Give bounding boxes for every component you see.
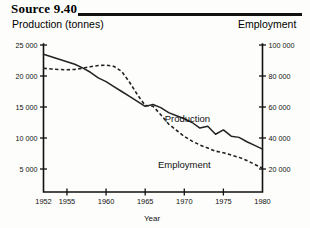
right-tick-label: 80 000 — [269, 72, 291, 81]
x-tick-label: 1960 — [98, 197, 114, 206]
right-tick-label: 40 000 — [269, 134, 291, 143]
series-annotations: ProductionEmployment — [158, 113, 211, 170]
series-line-employment — [44, 65, 263, 168]
series-line-production — [44, 54, 263, 149]
right-axis-ticks: 20 00040 00060 00080 000100 000 — [259, 41, 294, 174]
x-tick-label: 1970 — [176, 197, 192, 206]
left-tick-label: 20 000 — [16, 72, 38, 81]
x-tick-label: 1965 — [137, 197, 153, 206]
x-tick-label: 1975 — [215, 197, 231, 206]
series-label-employment: Employment — [158, 159, 211, 170]
x-axis-ticks: 1952195519601965197019751980 — [35, 189, 270, 207]
right-tick-label: 20 000 — [269, 165, 291, 174]
left-tick-label: 10 000 — [16, 134, 38, 143]
chart-figure: Source 9.40 Production (tonnes) Employme… — [0, 0, 310, 228]
axes-group — [44, 44, 263, 192]
left-tick-label: 25 000 — [16, 41, 38, 50]
series-label-production: Production — [165, 113, 210, 124]
right-tick-label: 60 000 — [269, 103, 291, 112]
x-tick-label: 1980 — [254, 197, 270, 206]
data-series-group — [44, 54, 263, 168]
x-tick-label: 1952 — [35, 197, 51, 206]
x-tick-label: 1955 — [59, 197, 75, 206]
right-tick-label: 100 000 — [269, 41, 295, 50]
left-tick-label: 15 000 — [16, 103, 38, 112]
x-axis-title: Year — [144, 214, 161, 223]
left-axis-ticks: 5 00010 00015 00020 00025 000 — [16, 41, 47, 174]
left-tick-label: 5 000 — [20, 165, 38, 174]
chart-plot-area: 5 00010 00015 00020 00025 000 20 00040 0… — [0, 0, 310, 228]
